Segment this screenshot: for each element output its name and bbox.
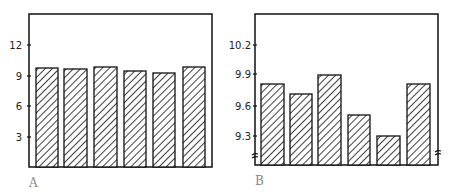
bars [261,75,430,165]
y-tick-label: 6 [16,101,22,112]
bar [64,69,87,167]
bar [261,84,284,165]
chart-figure: 12 9 6 3 A 10.2 9.9 9.6 9.3 [0,0,451,196]
bar [153,73,175,167]
y-tick-label: 9.3 [235,131,251,142]
bar [36,68,58,167]
chart-panel-a: 12 9 6 3 A [9,14,212,190]
y-tick-label: 3 [16,132,22,143]
y-tick-label: 10.2 [229,40,251,51]
bar [183,67,205,167]
panel-label-b: B [255,174,264,188]
y-tick-label: 9.6 [235,101,251,112]
bar [377,136,400,165]
bar [290,94,312,165]
y-tick-label: 9.9 [235,69,251,80]
bar [318,75,341,165]
y-tick-label: 12 [9,40,22,51]
y-tick-label: 9 [16,71,22,82]
bar [94,67,117,167]
bars [36,67,205,167]
panel-label-a: A [28,176,38,190]
bar [348,115,370,165]
bar [407,84,430,165]
bar [124,71,146,167]
chart-panel-b: 10.2 9.9 9.6 9.3 B [229,14,441,188]
